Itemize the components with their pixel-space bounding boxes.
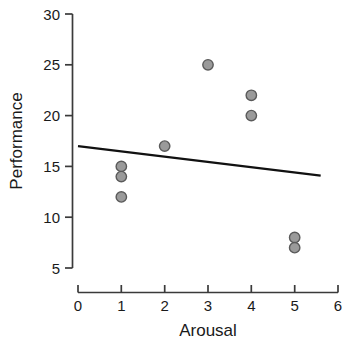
- x-tick-label-0: 0: [74, 297, 82, 314]
- x-axis-tick-labels: 0 1 2 3 4 5 6: [74, 297, 342, 314]
- y-tick-label-30: 30: [43, 6, 60, 23]
- scatter-plot-figure: 30 25 20 15 10 5 Performance 0: [0, 0, 352, 341]
- y-axis-tick-labels: 30 25 20 15 10 5: [43, 6, 60, 277]
- x-tick-label-2: 2: [161, 297, 169, 314]
- x-tick-label-5: 5: [291, 297, 299, 314]
- x-tick-label-6: 6: [334, 297, 342, 314]
- x-tick-label-4: 4: [247, 297, 255, 314]
- data-point: [116, 161, 126, 171]
- data-point: [116, 192, 126, 202]
- data-points-group: [116, 60, 300, 253]
- data-point: [246, 90, 256, 100]
- x-tick-label-1: 1: [117, 297, 125, 314]
- y-axis-ticks: [65, 14, 73, 268]
- y-tick-label-25: 25: [43, 56, 60, 73]
- y-tick-label-15: 15: [43, 158, 60, 175]
- x-tick-label-3: 3: [204, 297, 212, 314]
- y-axis-title: Performance: [7, 92, 26, 189]
- y-tick-label-20: 20: [43, 107, 60, 124]
- y-tick-label-5: 5: [52, 260, 60, 277]
- y-tick-label-10: 10: [43, 209, 60, 226]
- x-axis-ticks: [78, 285, 338, 293]
- data-point: [289, 242, 299, 252]
- trendline-group: [78, 146, 321, 175]
- x-axis-title: Arousal: [179, 321, 237, 340]
- data-point: [116, 171, 126, 181]
- data-point: [289, 232, 299, 242]
- regression-line: [78, 146, 321, 175]
- plot-canvas: 30 25 20 15 10 5 Performance 0: [0, 0, 352, 341]
- y-axis: 30 25 20 15 10 5 Performance: [7, 6, 73, 277]
- data-point: [246, 110, 256, 120]
- data-point: [203, 60, 213, 70]
- x-axis: 0 1 2 3 4 5 6 Arousal: [74, 285, 342, 340]
- data-point: [159, 141, 169, 151]
